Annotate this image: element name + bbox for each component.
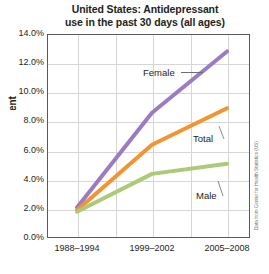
chart-container: United States: Antidepressant use in the… bbox=[0, 0, 269, 274]
y-axis-tick-label: 0.0% bbox=[0, 232, 44, 242]
chart-title: United States: Antidepressant use in the… bbox=[30, 3, 260, 29]
series-label-total: Total bbox=[193, 133, 213, 144]
chart-title-line-1: United States: Antidepressant bbox=[72, 3, 219, 15]
series-label-female: Female bbox=[143, 67, 175, 78]
series-lines bbox=[47, 34, 250, 238]
series-leader-female bbox=[181, 72, 203, 73]
y-axis-tick-label: 6.0% bbox=[0, 145, 44, 155]
x-axis-tick-label: 2005–2008 bbox=[187, 243, 267, 253]
series-line-male bbox=[77, 164, 227, 212]
series-label-male: Male bbox=[196, 190, 217, 201]
x-axis-tick-label: 1999–2002 bbox=[112, 243, 192, 253]
source-credit: Data from Center for Health Statistics (… bbox=[254, 60, 268, 230]
y-axis-title-text: Percentages bbox=[7, 96, 18, 110]
y-axis-tick-label: 10.0% bbox=[0, 86, 44, 96]
y-axis-tick-label: 14.0% bbox=[0, 28, 44, 38]
y-axis-tick-label: 4.0% bbox=[0, 174, 44, 184]
y-axis-tick-label: 2.0% bbox=[0, 203, 44, 213]
series-leader-male bbox=[218, 181, 223, 196]
x-axis-tick-label: 1988–1994 bbox=[37, 243, 117, 253]
chart-title-line-2: use in the past 30 days (all ages) bbox=[30, 16, 260, 29]
y-axis-tick-label: 8.0% bbox=[0, 115, 44, 125]
source-credit-text: Data from Center for Health Statistics (… bbox=[254, 60, 259, 230]
series-leader-total bbox=[219, 126, 224, 139]
y-axis-tick-label: 12.0% bbox=[0, 57, 44, 67]
